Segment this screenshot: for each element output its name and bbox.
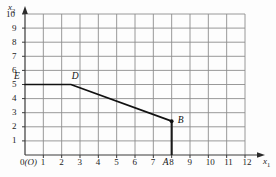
x-tick-label: 4 (96, 158, 101, 167)
point-label-E: E (14, 72, 20, 82)
axis-lines (22, 6, 265, 158)
y-axis-arrowhead (22, 6, 28, 14)
y-axis-label-sub: 2 (12, 7, 15, 14)
origin-label: 0(O) (20, 158, 37, 167)
data-points-group (170, 119, 174, 123)
origin-paren: (O) (25, 157, 38, 167)
y-tick-label: 8 (12, 38, 17, 47)
data-point-B (170, 119, 174, 123)
y-tick-label: 5 (12, 80, 17, 89)
axis-tick-marks (22, 14, 245, 158)
figure-canvas: 123456789101112 12345678910 EDBA 0(O) x1… (0, 0, 276, 177)
x-tick-label: 9 (188, 158, 193, 167)
y-tick-label: 9 (12, 24, 17, 33)
x-tick-label: 11 (224, 158, 233, 167)
y-tick-label: 4 (12, 94, 17, 103)
y-tick-label: 1 (12, 136, 17, 145)
x-tick-label: 2 (59, 158, 64, 167)
x-tick-label: 5 (114, 158, 119, 167)
y-axis-label: x2 (8, 3, 15, 14)
x-tick-label: 1 (41, 158, 46, 167)
x-tick-label: 12 (243, 158, 252, 167)
x-tick-label: 10 (206, 158, 215, 167)
x-axis-label-sub: 1 (267, 161, 270, 168)
point-label-A: A (163, 158, 169, 168)
x-tick-label: 6 (133, 158, 138, 167)
line-chart-svg (0, 0, 276, 177)
x-tick-label: 8 (169, 158, 174, 167)
y-tick-label: 2 (12, 122, 17, 131)
point-label-B: B (178, 116, 184, 126)
x-axis-label: x1 (263, 157, 270, 168)
x-tick-label: 7 (151, 158, 156, 167)
y-tick-label: 7 (12, 52, 17, 61)
x-tick-label: 3 (78, 158, 83, 167)
point-label-D: D (72, 72, 79, 82)
y-tick-label: 3 (12, 108, 17, 117)
